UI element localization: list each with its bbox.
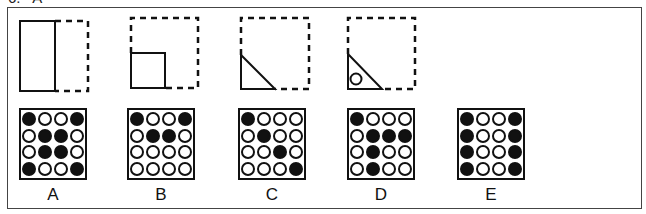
empty-hole-icon: [273, 112, 287, 126]
empty-hole-icon: [382, 145, 396, 159]
filled-hole-icon: [508, 145, 522, 159]
filled-hole-icon: [70, 112, 84, 126]
filled-hole-icon: [289, 162, 303, 176]
filled-hole-icon: [38, 145, 52, 159]
empty-hole-icon: [178, 162, 192, 176]
empty-hole-icon: [241, 129, 255, 143]
empty-hole-icon: [241, 145, 255, 159]
fold-step-2: [131, 18, 198, 88]
empty-hole-icon: [273, 162, 287, 176]
empty-hole-icon: [289, 112, 303, 126]
empty-hole-icon: [162, 145, 176, 159]
empty-hole-icon: [130, 162, 144, 176]
empty-hole-icon: [289, 129, 303, 143]
filled-hole-icon: [460, 112, 474, 126]
empty-hole-icon: [366, 112, 380, 126]
empty-hole-icon: [178, 129, 192, 143]
empty-hole-icon: [476, 145, 490, 159]
option-d-grid[interactable]: [347, 108, 415, 180]
fold-step-4: [348, 18, 415, 89]
empty-hole-icon: [162, 162, 176, 176]
filled-hole-icon: [382, 129, 396, 143]
option-label[interactable]: A: [19, 185, 87, 205]
option-c-grid[interactable]: [238, 108, 306, 180]
filled-hole-icon: [257, 129, 271, 143]
filled-hole-icon: [54, 129, 68, 143]
option-label[interactable]: C: [238, 185, 306, 205]
option-label[interactable]: E: [457, 185, 525, 205]
empty-hole-icon: [257, 162, 271, 176]
filled-hole-icon: [146, 129, 160, 143]
empty-hole-icon: [54, 162, 68, 176]
option-e-grid[interactable]: [457, 108, 525, 180]
empty-hole-icon: [492, 162, 506, 176]
filled-hole-icon: [508, 112, 522, 126]
filled-hole-icon: [366, 129, 380, 143]
empty-hole-icon: [398, 162, 412, 176]
filled-hole-icon: [130, 112, 144, 126]
empty-hole-icon: [476, 162, 490, 176]
filled-hole-icon: [273, 145, 287, 159]
empty-hole-icon: [382, 162, 396, 176]
empty-hole-icon: [257, 112, 271, 126]
empty-hole-icon: [241, 162, 255, 176]
empty-hole-icon: [146, 112, 160, 126]
empty-hole-icon: [398, 112, 412, 126]
empty-hole-icon: [257, 145, 271, 159]
empty-hole-icon: [162, 112, 176, 126]
empty-hole-icon: [289, 145, 303, 159]
empty-hole-icon: [70, 129, 84, 143]
filled-hole-icon: [54, 145, 68, 159]
empty-hole-icon: [492, 145, 506, 159]
empty-hole-icon: [350, 145, 364, 159]
filled-hole-icon: [460, 145, 474, 159]
option-b-grid[interactable]: [127, 108, 195, 180]
option-a-grid[interactable]: [19, 108, 87, 180]
empty-hole-icon: [70, 145, 84, 159]
empty-hole-icon: [350, 129, 364, 143]
empty-hole-icon: [492, 112, 506, 126]
empty-hole-icon: [130, 129, 144, 143]
empty-hole-icon: [398, 145, 412, 159]
empty-hole-icon: [54, 112, 68, 126]
empty-hole-icon: [476, 112, 490, 126]
empty-hole-icon: [273, 129, 287, 143]
filled-hole-icon: [178, 112, 192, 126]
filled-hole-icon: [350, 112, 364, 126]
empty-hole-icon: [382, 112, 396, 126]
fold-step-3: [241, 18, 309, 89]
empty-hole-icon: [38, 112, 52, 126]
empty-hole-icon: [22, 129, 36, 143]
filled-hole-icon: [38, 129, 52, 143]
filled-hole-icon: [460, 162, 474, 176]
empty-hole-icon: [130, 145, 144, 159]
option-label[interactable]: B: [127, 185, 195, 205]
filled-hole-icon: [366, 145, 380, 159]
punch-hole-icon: [351, 74, 362, 85]
empty-hole-icon: [38, 162, 52, 176]
filled-hole-icon: [508, 162, 522, 176]
filled-hole-icon: [241, 112, 255, 126]
fold-step-1: [20, 21, 88, 91]
filled-hole-icon: [366, 162, 380, 176]
empty-hole-icon: [476, 129, 490, 143]
folding-steps: [0, 0, 646, 214]
filled-hole-icon: [22, 162, 36, 176]
empty-hole-icon: [350, 162, 364, 176]
filled-hole-icon: [508, 129, 522, 143]
empty-hole-icon: [146, 145, 160, 159]
empty-hole-icon: [178, 145, 192, 159]
option-label[interactable]: D: [347, 185, 415, 205]
empty-hole-icon: [492, 129, 506, 143]
filled-hole-icon: [398, 129, 412, 143]
filled-hole-icon: [162, 129, 176, 143]
filled-hole-icon: [22, 112, 36, 126]
filled-hole-icon: [460, 129, 474, 143]
filled-hole-icon: [70, 162, 84, 176]
empty-hole-icon: [146, 162, 160, 176]
empty-hole-icon: [22, 145, 36, 159]
